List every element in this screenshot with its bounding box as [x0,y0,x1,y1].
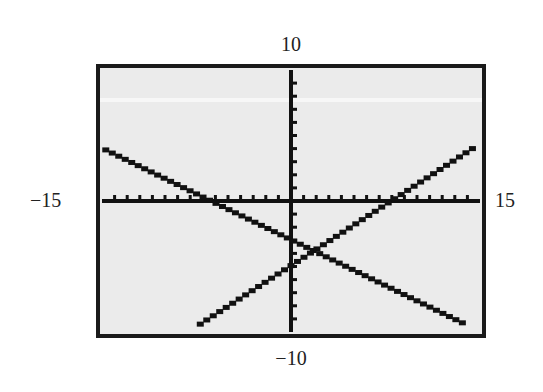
y-min-label: −10 [275,348,306,368]
y-tick [292,108,297,111]
decreasing-line-segment [413,298,420,303]
x-tick [164,195,167,200]
increasing-line-segment [365,213,372,218]
y-tick [292,226,297,229]
x-tick [327,195,330,200]
increasing-line-segment [352,221,359,226]
decreasing-line-segment [161,176,168,181]
increasing-line-segment [398,192,405,197]
decreasing-line-segment [381,283,388,288]
x-max-label: 15 [495,190,515,210]
x-tick [252,195,255,200]
decreasing-line-segment [206,198,213,203]
decreasing-line-segment [141,166,148,171]
decreasing-line-segment [420,301,427,306]
decreasing-line-segment [135,163,142,168]
increasing-line-segment [223,305,230,310]
x-tick [302,195,305,200]
decreasing-line-segment [167,179,174,184]
increasing-line-segment [372,209,379,214]
y-tick [292,304,297,307]
y-tick [292,213,297,216]
x-tick [176,195,179,200]
decreasing-line-segment [297,242,304,247]
decreasing-line-segment [329,257,336,262]
x-tick [277,195,280,200]
x-tick [365,195,368,200]
y-tick [292,134,297,137]
increasing-line-segment [288,263,295,268]
decreasing-line-segment [362,273,369,278]
y-tick [292,160,297,163]
decreasing-line-segment [180,185,187,190]
x-tick [264,195,267,200]
x-tick [138,195,141,200]
decreasing-line-segment [316,251,323,256]
increasing-line-segment [411,184,418,189]
x-tick [315,195,318,200]
x-tick [113,195,116,200]
decreasing-line-segment [115,154,122,159]
decreasing-line-segment [258,223,265,228]
increasing-line-segment [255,284,262,289]
increasing-line-segment [333,234,340,239]
decreasing-line-segment [128,160,135,165]
decreasing-line-segment [232,210,239,215]
y-tick [292,317,297,320]
decreasing-line-segment [433,308,440,313]
increasing-line-segment [404,188,411,193]
increasing-line-segment [450,159,457,164]
x-tick [428,195,431,200]
increasing-line-segment [346,226,353,231]
decreasing-line-segment [439,311,446,316]
graph-plot [96,64,486,338]
y-tick [292,278,297,281]
x-tick [453,195,456,200]
calculator-graph-screen [96,64,486,338]
increasing-line-segment [385,200,392,205]
increasing-line-segment [268,276,275,281]
decreasing-line-segment [290,239,297,244]
increasing-line-segment [210,313,217,318]
decreasing-line-segment [174,182,181,187]
decreasing-line-segment [446,314,453,319]
decreasing-line-segment [284,235,291,240]
x-tick [214,195,217,200]
decreasing-line-segment [349,267,356,272]
y-tick [292,173,297,176]
increasing-line-segment [326,238,333,243]
increasing-line-segment [236,297,243,302]
decreasing-line-segment [264,226,271,231]
increasing-line-segment [417,180,424,185]
decreasing-line-segment [212,201,219,206]
decreasing-line-segment [407,295,414,300]
decreasing-line-segment [336,261,343,266]
increasing-line-segment [378,205,385,210]
increasing-line-segment [339,230,346,235]
increasing-line-segment [281,267,288,272]
x-tick [227,195,230,200]
decreasing-line-segment [452,317,459,322]
decreasing-line-segment [426,305,433,310]
increasing-line-segment [249,288,256,293]
decreasing-line-segment [277,232,284,237]
decreasing-line-segment [401,292,408,297]
decreasing-line-segment [109,151,116,156]
x-tick [126,195,129,200]
decreasing-line-segment [271,229,278,234]
y-tick [292,147,297,150]
x-tick [466,195,469,200]
y-tick [292,95,297,98]
increasing-line-segment [443,163,450,168]
increasing-line-segment [197,322,204,327]
increasing-line-segment [313,246,320,251]
increasing-line-segment [216,309,223,314]
x-tick [189,195,192,200]
increasing-line-segment [462,150,469,155]
increasing-line-segment [275,271,282,276]
y-tick [292,252,297,255]
decreasing-line-segment [219,204,226,209]
decreasing-line-segment [388,286,395,291]
decreasing-line-segment [187,188,194,193]
decreasing-line-segment [368,276,375,281]
